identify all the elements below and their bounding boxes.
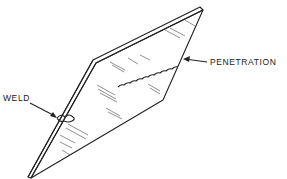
penetration-bead — [118, 67, 178, 87]
plate-shading — [60, 20, 195, 155]
penetration-label: PENETRATION — [210, 57, 276, 67]
penetration-leader — [183, 56, 207, 62]
weld-label: WELD — [3, 93, 30, 103]
plate-edge-line — [28, 60, 93, 177]
weld-bead — [57, 115, 74, 122]
plate-face — [31, 10, 203, 178]
weld-leader — [30, 103, 57, 118]
weld-diagram: WELD PENETRATION — [0, 0, 287, 179]
plate-edge — [28, 7, 203, 178]
